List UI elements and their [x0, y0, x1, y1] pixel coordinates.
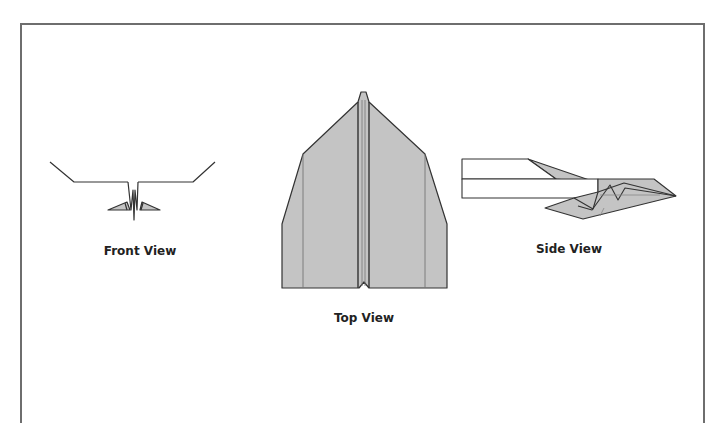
top-view-drawing	[282, 92, 447, 288]
front-view-label: Front View	[104, 244, 176, 258]
top-view-label: Top View	[334, 311, 394, 325]
front-view-drawing	[50, 162, 215, 220]
side-view-label: Side View	[536, 242, 602, 256]
side-view-drawing	[462, 159, 676, 219]
